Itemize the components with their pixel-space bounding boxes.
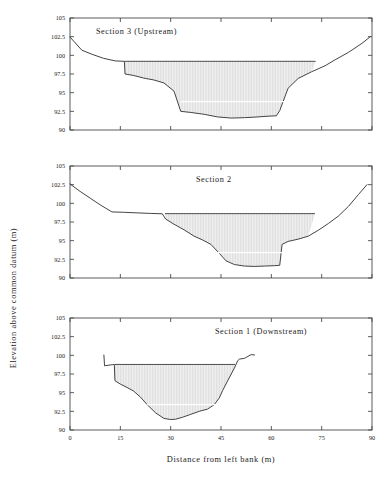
chart-panel-2: 105102.510097.59592.590Section 2 xyxy=(51,162,372,281)
y-tick-label: 102.5 xyxy=(51,181,65,188)
water-area xyxy=(115,364,235,419)
y-tick-label: 100 xyxy=(56,200,65,207)
x-tick-label: 45 xyxy=(218,434,224,441)
y-tick-label: 97.5 xyxy=(54,70,65,77)
x-tick-label: 15 xyxy=(117,434,123,441)
figure-canvas: 105102.510097.59592.590Section 3 (Upstre… xyxy=(0,0,389,480)
y-axis-title: Elevation above common datum (m) xyxy=(9,228,18,368)
y-tick-label: 102.5 xyxy=(51,33,65,40)
panel-title: Section 2 xyxy=(196,175,232,184)
x-tick-label: 90 xyxy=(369,434,375,441)
x-tick-label: 75 xyxy=(319,434,325,441)
water-area xyxy=(125,61,316,118)
x-tick-label: 0 xyxy=(68,434,71,441)
y-tick-label: 105 xyxy=(56,14,65,21)
y-tick-label: 92.5 xyxy=(54,408,65,415)
chart-panel-1: 105102.510097.59592.5900153045607590Sect… xyxy=(51,314,375,441)
y-tick-label: 90 xyxy=(59,274,65,281)
y-tick-label: 92.5 xyxy=(54,108,65,115)
y-tick-label: 90 xyxy=(59,126,65,133)
y-tick-label: 95 xyxy=(59,237,65,244)
cross-section-figure: 105102.510097.59592.590Section 3 (Upstre… xyxy=(0,0,389,480)
panel-title: Section 1 (Downstream) xyxy=(215,327,307,336)
x-tick-label: 30 xyxy=(168,434,174,441)
panel-title: Section 3 (Upstream) xyxy=(96,27,177,36)
y-tick-label: 100 xyxy=(56,352,65,359)
y-tick-label: 92.5 xyxy=(54,256,65,263)
y-tick-label: 105 xyxy=(56,314,65,321)
y-tick-label: 97.5 xyxy=(54,218,65,225)
x-axis-title: Distance from left bank (m) xyxy=(167,455,275,464)
y-tick-label: 105 xyxy=(56,162,65,169)
y-tick-label: 100 xyxy=(56,52,65,59)
y-tick-label: 102.5 xyxy=(51,333,65,340)
y-tick-label: 95 xyxy=(59,389,65,396)
y-tick-label: 95 xyxy=(59,89,65,96)
chart-panel-3: 105102.510097.59592.590Section 3 (Upstre… xyxy=(51,14,372,133)
x-tick-label: 60 xyxy=(268,434,274,441)
y-tick-label: 90 xyxy=(59,426,65,433)
y-tick-label: 97.5 xyxy=(54,370,65,377)
